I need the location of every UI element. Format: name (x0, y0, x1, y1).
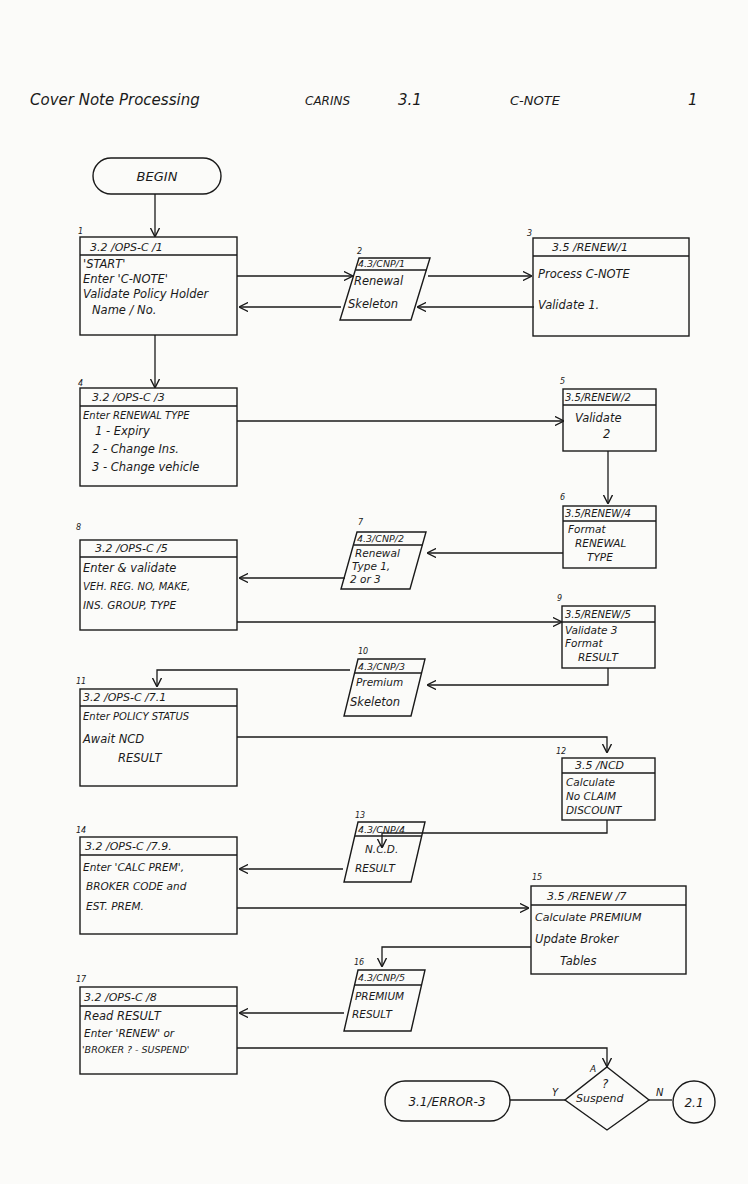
data-box-10: 10 4.3/CNP/3 Premium Skeleton (344, 647, 425, 716)
process-box-5: 5 3.5/RENEW/2 Validate 2 (560, 377, 656, 451)
svg-text:VEH. REG. NO, MAKE,: VEH. REG. NO, MAKE, (83, 581, 190, 592)
process-box-3: 3 3.5 /RENEW/1 Process C-NOTE Validate 1… (527, 229, 689, 336)
svg-text:3.2 /OPS-C /3: 3.2 /OPS-C /3 (92, 391, 165, 404)
svg-text:2 or 3: 2 or 3 (350, 573, 381, 585)
suspend-decision: A ? Suspend Y N (552, 1064, 664, 1130)
process-box-17: 17 3.2 /OPS-C /8 Read RESULT Enter 'RENE… (76, 975, 237, 1074)
svg-text:Renewal: Renewal (355, 547, 400, 559)
begin-terminator: BEGIN (93, 158, 221, 194)
svg-text:3 - Change vehicle: 3 - Change vehicle (92, 460, 199, 474)
header-page: 1 (688, 91, 698, 109)
svg-text:Format: Format (568, 523, 606, 535)
svg-text:4.3/CNP/1: 4.3/CNP/1 (358, 258, 405, 269)
data-box-2: 2 4.3/CNP/1 Renewal Skeleton (340, 247, 430, 320)
svg-text:Enter 'RENEW' or: Enter 'RENEW' or (84, 1027, 175, 1039)
process-box-12: 12 3.5 /NCD Calculate No CLAIM DISCOUNT (556, 747, 655, 820)
svg-text:Premium: Premium (356, 676, 403, 688)
svg-text:17: 17 (76, 975, 87, 984)
svg-text:RESULT: RESULT (118, 751, 163, 765)
svg-text:Read RESULT: Read RESULT (84, 1009, 162, 1023)
svg-text:14: 14 (76, 826, 86, 835)
svg-text:3.5/RENEW/4: 3.5/RENEW/4 (565, 508, 631, 519)
svg-text:4.3/CNP/4: 4.3/CNP/4 (358, 824, 405, 835)
svg-text:Skeleton: Skeleton (350, 695, 400, 709)
svg-text:4: 4 (78, 379, 83, 388)
svg-text:Enter POLICY STATUS: Enter POLICY STATUS (83, 711, 190, 722)
process-box-11: 11 3.2 /OPS-C /7.1 Enter POLICY STATUS A… (76, 677, 237, 786)
process-box-6: 6 3.5/RENEW/4 Format RENEWAL TYPE (560, 493, 656, 568)
svg-text:Enter RENEWAL TYPE: Enter RENEWAL TYPE (83, 410, 190, 421)
svg-text:4.3/CNP/2: 4.3/CNP/2 (357, 533, 404, 544)
svg-text:4.3/CNP/5: 4.3/CNP/5 (358, 972, 405, 983)
svg-text:RESULT: RESULT (578, 651, 619, 663)
process-box-4: 4 3.2 /OPS-C /3 Enter RENEWAL TYPE 1 - E… (78, 379, 237, 486)
svg-text:16: 16 (354, 958, 364, 967)
begin-label: BEGIN (137, 169, 178, 184)
svg-text:'BROKER ? - SUSPEND': 'BROKER ? - SUSPEND' (82, 1044, 189, 1055)
header-section: 3.1 (398, 91, 422, 109)
svg-text:Await NCD: Await NCD (82, 732, 144, 746)
svg-text:11: 11 (76, 677, 86, 686)
svg-text:?: ? (602, 1077, 609, 1091)
error-terminator: 3.1/ERROR-3 (385, 1081, 510, 1121)
svg-text:13: 13 (355, 811, 365, 820)
flowchart: Cover Note Processing CARINS 3.1 C-NOTE … (0, 0, 748, 1184)
svg-text:Validate 1.: Validate 1. (538, 298, 599, 312)
svg-text:6: 6 (560, 493, 565, 502)
process-box-9: 9 3.5/RENEW/5 Validate 3 Format RESULT (557, 594, 655, 668)
svg-text:3.5 /RENEW/1: 3.5 /RENEW/1 (552, 241, 628, 254)
svg-text:3.5/RENEW/2: 3.5/RENEW/2 (565, 392, 631, 403)
svg-text:4.3/CNP/3: 4.3/CNP/3 (358, 661, 405, 672)
svg-text:Validate: Validate (575, 411, 622, 425)
data-box-7: 7 4.3/CNP/2 Renewal Type 1, 2 or 3 (341, 518, 426, 589)
svg-text:Update Broker: Update Broker (535, 932, 620, 946)
data-box-16: 16 4.3/CNP/5 PREMIUM RESULT (344, 958, 425, 1031)
svg-text:Enter 'C-NOTE': Enter 'C-NOTE' (83, 272, 168, 286)
svg-text:RESULT: RESULT (355, 862, 396, 874)
header-module: C-NOTE (510, 93, 561, 108)
svg-text:Skeleton: Skeleton (348, 297, 398, 311)
svg-text:2: 2 (357, 247, 362, 256)
svg-text:RENEWAL: RENEWAL (575, 537, 626, 549)
page-header: Cover Note Processing CARINS 3.1 C-NOTE … (30, 91, 698, 109)
svg-text:3.2 /OPS-C /7.1: 3.2 /OPS-C /7.1 (83, 691, 166, 704)
svg-text:7: 7 (358, 518, 364, 527)
svg-text:Format: Format (565, 637, 603, 649)
data-box-13: 13 4.3/CNP/4 N.C.D. RESULT (344, 811, 425, 882)
process-box-15: 15 3.5 /RENEW /7 Calculate PREMIUM Updat… (531, 873, 686, 974)
svg-text:PREMIUM: PREMIUM (355, 990, 404, 1002)
svg-text:Validate Policy Holder: Validate Policy Holder (83, 287, 210, 301)
svg-text:Validate 3: Validate 3 (565, 624, 617, 636)
svg-text:TYPE: TYPE (587, 551, 613, 563)
svg-text:15: 15 (532, 873, 542, 882)
svg-text:Type 1,: Type 1, (352, 560, 390, 572)
svg-text:EST. PREM.: EST. PREM. (86, 900, 144, 912)
svg-text:3.5/RENEW/5: 3.5/RENEW/5 (565, 609, 631, 620)
svg-text:10: 10 (358, 647, 368, 656)
node-id: 3.2 /OPS-C /1 (90, 241, 163, 254)
header-system: CARINS (305, 94, 350, 108)
svg-text:3.2 /OPS-C /5: 3.2 /OPS-C /5 (95, 542, 168, 555)
svg-text:Suspend: Suspend (576, 1092, 624, 1105)
svg-text:5: 5 (560, 377, 565, 386)
svg-text:2.1: 2.1 (684, 1096, 703, 1110)
process-box-8: 8 3.2 /OPS-C /5 Enter & validate VEH. RE… (76, 523, 237, 630)
svg-text:1 - Expiry: 1 - Expiry (95, 424, 150, 438)
svg-text:3: 3 (527, 229, 532, 238)
svg-text:No CLAIM: No CLAIM (566, 790, 616, 802)
no-label: N (656, 1087, 664, 1098)
svg-text:8: 8 (76, 523, 81, 532)
svg-text:RESULT: RESULT (352, 1008, 393, 1020)
svg-text:2: 2 (603, 427, 610, 441)
svg-text:Enter & validate: Enter & validate (83, 561, 176, 575)
header-title: Cover Note Processing (30, 91, 200, 109)
svg-text:Calculate PREMIUM: Calculate PREMIUM (535, 911, 642, 924)
svg-text:N.C.D.: N.C.D. (365, 843, 398, 855)
svg-text:BROKER CODE and: BROKER CODE and (86, 880, 187, 892)
connector-2-1: 2.1 (673, 1081, 715, 1123)
svg-text:3.2 /OPS-C /7.9.: 3.2 /OPS-C /7.9. (85, 840, 172, 853)
svg-text:Tables: Tables (560, 954, 596, 968)
svg-text:12: 12 (556, 747, 566, 756)
svg-text:1: 1 (78, 227, 83, 236)
svg-text:Process C-NOTE: Process C-NOTE (538, 267, 631, 281)
